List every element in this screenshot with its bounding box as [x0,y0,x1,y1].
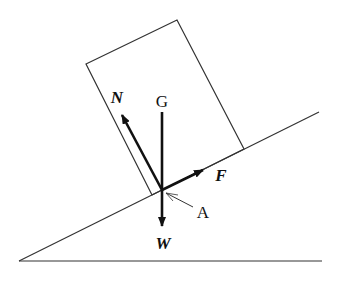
friction-force-label: F [215,167,226,184]
weight-label: W [155,235,170,252]
friction-force-arrow [162,170,203,190]
normal-force-arrow [122,115,162,190]
contact-point-label: A [197,204,209,221]
center-of-gravity-label: G [156,93,168,110]
diagram-svg [0,0,342,283]
contact-point-leader [166,193,193,207]
normal-force-label: N [111,89,123,106]
diagram-canvas: N G F W A [0,0,342,283]
